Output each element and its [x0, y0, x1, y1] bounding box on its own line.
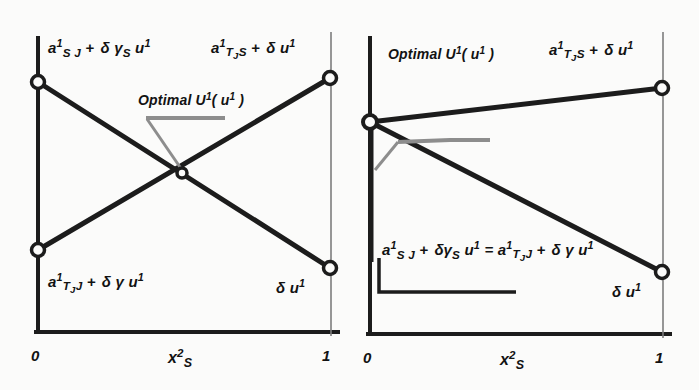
right-panel-equality-bracket: [379, 258, 516, 292]
left-panel-tick-1: 1: [322, 348, 331, 363]
right-panel-label-top-right: a1TJS + δ u1: [549, 40, 633, 63]
right-bottom-right-math: δ u1: [612, 283, 641, 300]
right-panel-label-bottom-right: δ u1: [612, 282, 641, 299]
left-panel-node-intersection: [177, 168, 187, 178]
left-top-right-math: a1TJS + δ u1: [211, 39, 295, 56]
right-panel-tick-1: 1: [655, 350, 664, 365]
left-panel-node-bottom-left: [32, 244, 45, 257]
figure-container: a1S J + δ γS u1 a1TJS + δ u1 Optimal U1(…: [0, 0, 699, 390]
left-panel-x-axis-label: x2S: [168, 348, 192, 369]
left-optimal-math: Optimal U1( u1 ): [138, 92, 244, 108]
right-panel-node-origin: [363, 115, 377, 129]
left-panel-node-top-left: [32, 76, 45, 89]
right-optimal-math: Optimal U1( u1 ): [388, 46, 494, 62]
left-panel-label-top-right: a1TJS + δ u1: [211, 38, 295, 61]
left-panel-label-bottom-left: a1TJJ + δ γ u1: [48, 272, 144, 295]
right-panel-label-equality: a1S J + δγS u1 = a1TJJ + δ γ u1: [382, 240, 594, 263]
left-panel-label-top-left: a1S J + δ γS u1: [48, 38, 151, 58]
left-bottom-left-math: a1TJJ + δ γ u1: [48, 273, 144, 290]
left-panel-label-bottom-right: δ u1: [276, 278, 305, 295]
right-top-right-math: a1TJS + δ u1: [549, 41, 633, 58]
left-panel-node-top-right: [324, 72, 337, 85]
left-bottom-right-math: δ u1: [276, 279, 305, 296]
right-panel-label-optimal: Optimal U1( u1 ): [388, 46, 494, 61]
right-equality-math: a1S J + δγS u1 = a1TJJ + δ γ u1: [382, 241, 594, 258]
left-top-left-math: a1S J + δ γS u1: [48, 39, 151, 56]
left-panel-node-bottom-right: [324, 262, 337, 275]
right-panel-tick-0: 0: [363, 350, 372, 365]
right-panel-node-bottom-right: [656, 266, 669, 279]
right-panel-node-top-right: [656, 82, 669, 95]
left-panel-label-optimal: Optimal U1( u1 ): [138, 92, 244, 107]
right-panel-x-axis-label: x2S: [500, 350, 524, 371]
right-panel-leader-pointer: [375, 142, 398, 170]
left-panel-tick-0: 0: [31, 348, 40, 363]
left-x-axis-math: x2S: [168, 349, 192, 366]
right-x-axis-math: x2S: [500, 351, 524, 368]
right-panel-leader-line: [398, 140, 490, 142]
right-panel-line-ascending: [370, 88, 662, 122]
